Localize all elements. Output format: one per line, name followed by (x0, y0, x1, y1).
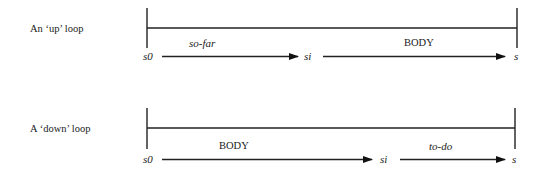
down-loop-segment2-label: to-do (429, 141, 452, 152)
up-loop-diagram (147, 8, 517, 57)
down-loop-segment1-label: BODY (219, 141, 249, 152)
up-loop-segment1-label: so-far (189, 38, 215, 49)
down-loop-end-label: s (512, 154, 516, 165)
down-loop-start-label: s0 (143, 154, 153, 165)
up-loop-end-label: s (514, 51, 518, 62)
up-loop-segment2-label: BODY (404, 38, 434, 49)
down-loop-middle-label: si (380, 154, 387, 165)
up-loop-start-label: s0 (143, 51, 153, 62)
up-loop-title: An ‘up’ loop (30, 23, 83, 34)
down-loop-diagram (147, 108, 515, 160)
up-loop-middle-label: si (304, 51, 311, 62)
down-loop-title: A ‘down’ loop (30, 123, 90, 134)
